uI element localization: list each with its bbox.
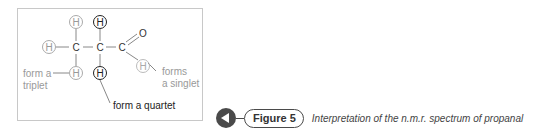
atom-h-aldehyde: H <box>139 61 146 72</box>
figure-caption: Figure 5 Interpretation of the n.m.r. sp… <box>216 108 523 128</box>
back-arrow-icon[interactable] <box>216 108 236 128</box>
figure-number: Figure 5 <box>244 109 304 128</box>
atom-c: C <box>118 42 125 53</box>
atom-h: H <box>45 42 52 53</box>
propanal-structure: H H H H H H C C C O form a triplet forms… <box>0 0 210 125</box>
atom-h: H <box>72 17 79 28</box>
atom-h: H <box>96 17 103 28</box>
atom-c: C <box>96 42 103 53</box>
label-quartet: form a quartet <box>113 100 175 111</box>
atom-o: O <box>139 28 147 39</box>
atom-h: H <box>72 68 79 79</box>
label-triplet-2: triplet <box>23 80 48 91</box>
atom-c: C <box>72 42 79 53</box>
atom-h: H <box>96 68 103 79</box>
label-singlet-2: a singlet <box>162 78 199 89</box>
connector-line <box>236 118 244 119</box>
label-singlet-1: forms <box>162 66 187 77</box>
figure-description: Interpretation of the n.m.r. spectrum of… <box>312 113 523 124</box>
label-triplet-1: form a <box>23 68 52 79</box>
